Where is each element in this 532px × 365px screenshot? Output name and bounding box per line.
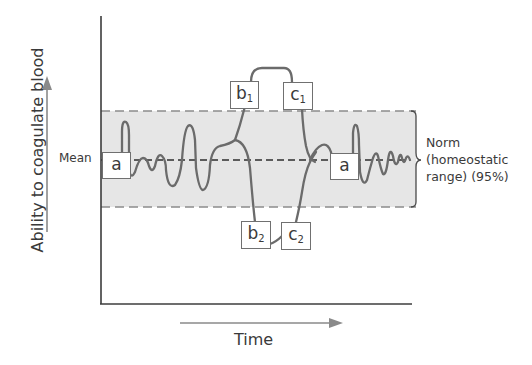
norm-label: Norm (homeostatic range) (95%) [426,134,532,185]
box-subscript: 1 [247,93,253,104]
homeostasis-diagram: Ability to coagulate blood Time Mean Nor… [0,0,532,365]
box-b1: b1 [230,81,259,109]
norm-label-line1: Norm [426,134,532,151]
box-subscript: 1 [299,94,305,105]
y-axis-label: Ability to coagulate blood [28,48,47,253]
x-axis-label: Time [234,330,273,349]
box-a-left: a [102,152,131,179]
normal-range-band [101,111,416,207]
box-c2: c2 [281,222,311,250]
box-subscript: 2 [258,233,264,244]
box-letter: a [111,154,121,174]
box-b2: b2 [241,221,271,249]
b1-c1-connector [251,68,292,82]
mean-label: Mean [59,151,92,165]
box-letter: a [339,155,349,175]
box-subscript: 2 [297,234,303,245]
box-letter: b [236,83,247,103]
box-letter: b [247,223,258,243]
box-a-right: a [330,153,359,180]
box-c1: c1 [283,82,313,110]
norm-label-line3: range) (95%) [426,168,532,185]
norm-label-line2: (homeostatic [426,151,532,168]
x-arrow-head-icon [329,318,343,328]
